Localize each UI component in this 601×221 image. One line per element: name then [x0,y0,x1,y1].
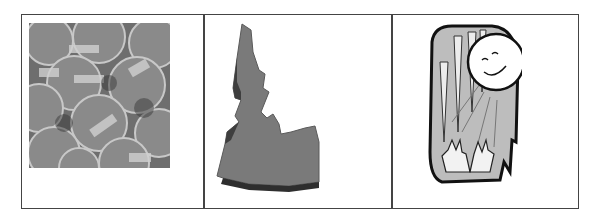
smiling-sun [468,34,522,90]
penny-coins [29,23,170,168]
pennies-image[interactable] [29,23,170,168]
idaho-face [217,24,319,186]
sun-melting-icicles-image[interactable] [422,22,522,184]
cell-divider [203,14,205,209]
idaho-shape-image[interactable] [209,22,324,192]
cell-divider [391,14,393,209]
